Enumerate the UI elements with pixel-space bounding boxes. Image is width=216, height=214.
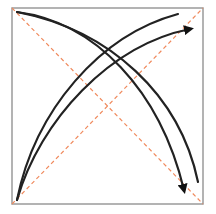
curve-tl-br-plain — [17, 12, 198, 182]
crossing-arrows-diagram — [0, 0, 216, 214]
dashed-diagonals — [12, 8, 203, 204]
curve-bl-tr-arrow — [17, 29, 190, 200]
